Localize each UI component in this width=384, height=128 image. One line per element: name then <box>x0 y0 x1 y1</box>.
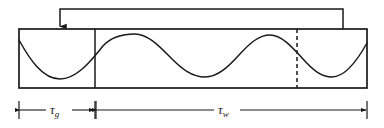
dimension-label-tau-w: τw <box>218 101 229 119</box>
waveform-frame <box>19 29 367 88</box>
tau-subscript-g: g <box>55 109 60 119</box>
feedback-loop-arrow <box>60 9 343 29</box>
tau-subscript-w: w <box>223 109 229 119</box>
dimension-label-tau-g: τg <box>50 101 59 119</box>
dimension-tau-w <box>96 101 367 119</box>
sine-wave <box>19 34 367 79</box>
figure-canvas: τg τw <box>0 0 384 128</box>
